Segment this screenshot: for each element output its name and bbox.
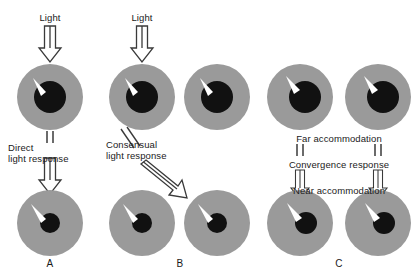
panel-a-light-label: Light	[39, 12, 60, 23]
panel-c-top-left-eye	[267, 64, 333, 130]
panel-b-bottom-left-eye	[109, 190, 175, 256]
panel-c-letter: C	[335, 258, 342, 269]
panel-b-response-label-line1: Consensual	[106, 139, 157, 150]
panel-a-connector-shafts	[47, 131, 53, 143]
panel-b-top-right-eye	[184, 64, 250, 130]
panel-c-left-connector-shafts	[297, 144, 303, 156]
panel-c-top-right-eye	[345, 64, 411, 130]
panel-a-light-arrow	[39, 26, 61, 62]
panel-a-letter: A	[47, 258, 54, 269]
panel-b-response-label-line2: light response	[106, 150, 167, 161]
panel-a-top-eye	[17, 64, 83, 130]
panel-b-light-label: Light	[131, 12, 152, 23]
panel-c-far-accommodation-label: Far accommodation	[296, 133, 382, 144]
panel-c-near-accommodation-label: Near accommodation	[293, 185, 385, 196]
panel-a-response-label-line2: light response	[8, 153, 69, 164]
panel-c-bottom-left-eye	[267, 190, 333, 256]
panel-b-light-arrow	[131, 26, 153, 62]
pupillary-reflex-diagram: Light Direct light response A Light Cons…	[0, 0, 413, 276]
panel-b-letter: B	[177, 258, 184, 269]
panel-a-bottom-eye	[17, 190, 83, 256]
panel-c-bottom-right-eye	[345, 190, 411, 256]
panel-a-response-label-line1: Direct	[8, 142, 33, 153]
panel-c-right-connector-shafts	[375, 144, 381, 156]
panel-b-bottom-right-eye	[184, 190, 250, 256]
panel-b-top-left-eye	[109, 64, 175, 130]
panel-c-convergence-label: Convergence response	[289, 159, 389, 170]
